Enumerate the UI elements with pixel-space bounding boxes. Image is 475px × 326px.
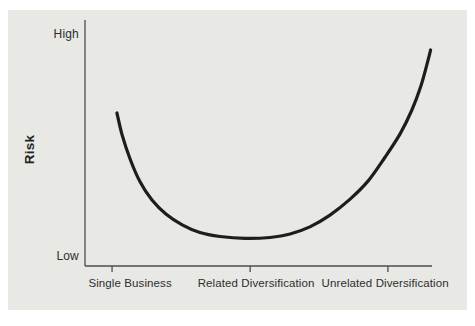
x-axis-ticks: [112, 266, 388, 272]
y-axis-label-high: High: [0, 27, 79, 41]
risk-curve: [117, 50, 431, 238]
y-axis-title: Risk: [22, 118, 37, 182]
x-axis-category-label: Related Diversification: [198, 277, 315, 289]
x-axis-category-label: Single Business: [88, 277, 171, 289]
y-axis-label-low: Low: [0, 249, 79, 263]
figure-canvas: High Low Risk Single BusinessRelated Div…: [0, 0, 475, 326]
x-axis-category-label: Unrelated Diversification: [322, 277, 449, 289]
